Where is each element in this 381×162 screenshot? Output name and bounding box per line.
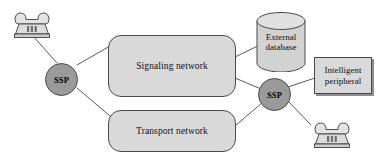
ssp-node-right[interactable]: SSP — [258, 78, 291, 111]
intelligent-peripheral-label-line1: Intelligent — [325, 65, 362, 76]
intelligent-peripheral-label-line2: peripheral — [325, 76, 362, 87]
ssp-node-left[interactable]: SSP — [45, 63, 78, 96]
intelligent-peripheral-box[interactable]: Intelligent peripheral — [314, 57, 372, 94]
external-database-cylinder[interactable]: External database — [255, 12, 307, 72]
telephone-keypad-right — [327, 136, 337, 142]
edge-ssp-left-to-signaling-network — [77, 46, 110, 65]
transport-network-label: Transport network — [136, 126, 208, 137]
signaling-network-box[interactable]: Signaling network — [108, 35, 236, 97]
edge-transport-network-to-ssp-right — [235, 102, 263, 126]
telephone-base-left — [15, 34, 50, 38]
signaling-network-label: Signaling network — [136, 61, 208, 72]
edge-phone-left-to-ssp-left — [33, 36, 57, 63]
transport-network-box[interactable]: Transport network — [108, 110, 236, 152]
telephone-keypad-left — [27, 26, 37, 32]
ssp-right-label: SSP — [267, 90, 282, 100]
telephone-base-right — [315, 144, 350, 148]
edge-ssp-right-to-intelligent-peripheral — [288, 78, 315, 87]
cylinder-top — [257, 13, 305, 30]
network-diagram: SSP Signaling network Transport network … — [0, 0, 381, 162]
desk-telephone-icon-right — [308, 120, 356, 150]
edge-signaling-network-to-ssp-right — [235, 78, 261, 89]
telephone-handset-right — [315, 123, 349, 134]
telephone-handset-left — [15, 13, 49, 24]
desk-telephone-icon-left — [8, 10, 56, 40]
ssp-left-label: SSP — [54, 75, 69, 85]
edge-ssp-left-to-transport-network — [77, 88, 110, 116]
